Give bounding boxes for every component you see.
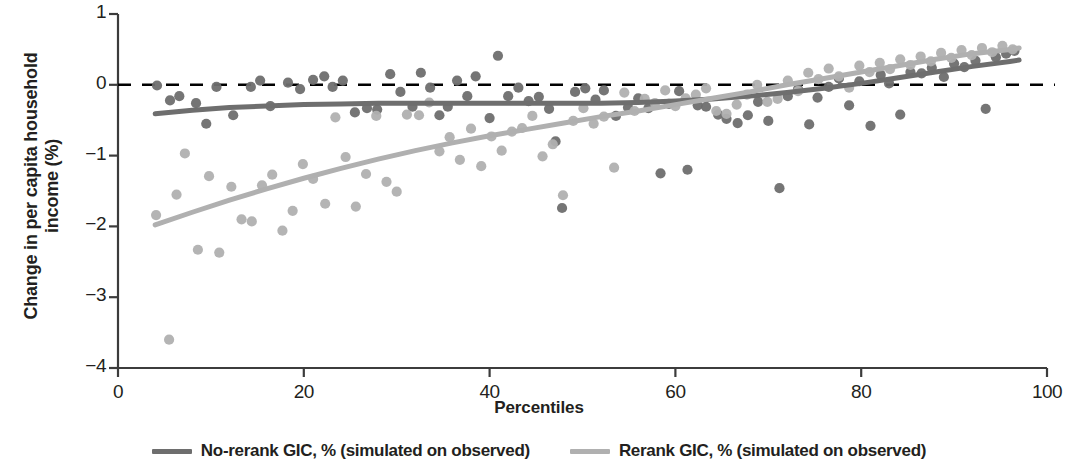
legend-label-no-rerank: No-rerank GIC, % (simulated on observed) [201,441,530,461]
legend-entry-no-rerank[interactable]: No-rerank GIC, % (simulated on observed) [152,441,530,461]
scatter-point [371,111,381,121]
scatter-point [414,110,424,120]
scatter-point [385,69,395,79]
x-tick-label: 60 [645,381,705,403]
scatter-point [308,75,318,85]
scatter-point [381,177,391,187]
scatter-point [803,68,813,78]
y-tick-label: 1 [60,1,106,23]
scatter-point [824,63,834,73]
scatter-point [228,110,238,120]
scatter-point [255,75,265,85]
scatter-point [762,97,772,107]
scatter-point [425,83,435,93]
scatter-point [471,71,481,81]
scatter-point [701,102,711,112]
scatter-point [193,245,203,255]
scatter-point [534,92,544,102]
scatter-point [361,169,371,179]
scatter-point [580,83,590,93]
scatter-point [191,98,201,108]
scatter-point [804,119,814,129]
scatter-point [298,159,308,169]
scatter-point [165,95,175,105]
scatter-point [267,170,277,180]
scatter-point [226,182,236,192]
y-tick-label: −1 [60,143,106,165]
scatter-point [753,97,763,107]
x-tick-label: 0 [88,381,148,403]
scatter-point [295,84,305,94]
scatter-point [395,87,405,97]
scatter-point [619,87,629,97]
scatter-point [721,109,731,119]
scatter-point [402,109,412,119]
scatter-point [548,139,558,149]
scatter-point [558,190,568,200]
scatter-point [537,151,547,161]
scatter-point [844,100,854,110]
y-tick-label: −4 [60,355,106,377]
scatter-point [682,165,692,175]
scatter-point [466,124,476,134]
scatter-point [895,109,905,119]
legend-entry-rerank[interactable]: Rerank GIC, % (simulated on observed) [570,441,926,461]
x-tick-label: 80 [831,381,891,403]
scatter-point [557,203,567,213]
scatter-point [247,216,257,226]
scatter-point [493,51,503,61]
scatter-point [497,146,507,156]
scatter-point [476,161,486,171]
x-axis-title: Percentiles [0,398,1078,418]
scatter-point [328,82,338,92]
scatter-point [214,248,224,258]
scatter-point [711,106,721,116]
scatter-point [452,75,462,85]
scatter-point [609,163,619,173]
scatter-point [434,110,444,120]
y-tick-label: −3 [60,284,106,306]
scatter-point [211,82,221,92]
y-tick-label: −2 [60,213,106,235]
y-tick-label: 0 [60,72,106,94]
scatter-point [392,187,402,197]
scatter-point [455,155,465,165]
scatter-point [201,119,211,129]
legend-swatch-no-rerank-icon [152,449,192,454]
scatter-point [330,112,340,122]
scatter-point [701,83,711,93]
scatter-point [171,189,181,199]
scatter-point [981,104,991,114]
x-tick-label: 20 [274,381,334,403]
scatter-point [152,80,162,90]
scatter-point [655,168,665,178]
x-tick-label: 100 [1017,381,1077,403]
chart-legend: No-rerank GIC, % (simulated on observed)… [0,441,1078,461]
legend-swatch-rerank-icon [570,449,610,454]
legend-label-rerank: Rerank GIC, % (simulated on observed) [619,441,926,461]
scatter-point [246,82,256,92]
scatter-point [319,71,329,81]
scatter-point [151,210,161,220]
scatter-point [164,335,174,345]
scatter-point [320,199,330,209]
scatter-point [570,87,580,97]
scatter-point [462,91,472,101]
scatter-point [485,113,495,123]
scatter-point [503,91,513,101]
scatter-point [204,171,214,181]
scatter-point [865,121,875,131]
scatter-point [416,68,426,78]
scatter-point [351,201,361,211]
scatter-point [599,85,609,95]
scatter-point [763,116,773,126]
scatter-point [236,214,246,224]
scatter-point [732,100,742,110]
scatter-point [350,107,360,117]
scatter-point [743,110,753,120]
scatter-point [527,111,537,121]
scatter-point [174,91,184,101]
scatter-point [283,78,293,88]
scatter-point [288,206,298,216]
x-tick-label: 40 [460,381,520,403]
